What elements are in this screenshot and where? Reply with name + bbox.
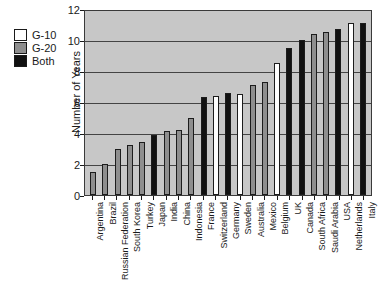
- plot-area: [84, 10, 372, 196]
- x-tick: [123, 196, 135, 201]
- x-tick: [98, 196, 110, 201]
- bar: [90, 172, 96, 195]
- x-label-slot: Germany: [222, 202, 234, 290]
- bar-slot: [197, 11, 209, 195]
- bar-slot: [332, 11, 344, 195]
- x-tick: [333, 196, 345, 201]
- bar-slot: [148, 11, 160, 195]
- bar: [237, 94, 243, 195]
- bar-slot: [124, 11, 136, 195]
- x-tick-mark: [104, 196, 105, 200]
- x-label-slot: Turkey: [135, 202, 147, 290]
- x-label-slot: Indonesia: [185, 202, 197, 290]
- x-tick-mark: [178, 196, 179, 200]
- x-tick: [135, 196, 147, 201]
- x-label-slot: USA: [333, 202, 345, 290]
- x-tick-mark: [363, 196, 364, 200]
- x-label-slot: Sweden: [234, 202, 246, 290]
- x-tick: [271, 196, 283, 201]
- chart-legend: G-10G-20Both: [14, 28, 56, 67]
- bar: [286, 48, 292, 195]
- x-tick: [172, 196, 184, 201]
- legend-swatch-g20: [14, 42, 27, 54]
- x-tick: [148, 196, 160, 201]
- bar: [299, 40, 305, 195]
- y-tick-label: 10: [68, 35, 80, 47]
- x-label-slot: Italy: [358, 202, 370, 290]
- bar: [201, 97, 207, 195]
- bar-slot: [161, 11, 173, 195]
- bar: [335, 29, 341, 195]
- x-tick: [308, 196, 320, 201]
- x-tick-mark: [240, 196, 241, 200]
- bar-slot: [246, 11, 258, 195]
- bar-slot: [296, 11, 308, 195]
- bar-slot: [173, 11, 185, 195]
- bar: [262, 82, 268, 195]
- x-label-slot: Netherlands: [345, 202, 357, 290]
- x-tick-mark: [314, 196, 315, 200]
- x-tick: [246, 196, 258, 201]
- x-label-slot: Canada: [296, 202, 308, 290]
- x-label-slot: Brazil: [98, 202, 110, 290]
- x-label-slot: India: [160, 202, 172, 290]
- x-tick-mark: [153, 196, 154, 200]
- bar-slot: [345, 11, 357, 195]
- bar-slot: [185, 11, 197, 195]
- bar: [274, 63, 280, 195]
- bar: [102, 164, 108, 195]
- bar: [151, 135, 157, 195]
- legend-label: G-10: [32, 29, 56, 41]
- x-tick: [358, 196, 370, 201]
- bar-slot: [308, 11, 320, 195]
- x-tick-mark: [326, 196, 327, 200]
- legend-item-g20: G-20: [14, 41, 56, 54]
- x-axis-label: Italy: [368, 202, 377, 219]
- legend-label: G-20: [32, 42, 56, 54]
- bar: [176, 130, 182, 195]
- x-tick-mark: [116, 196, 117, 200]
- bar-slot: [99, 11, 111, 195]
- bar: [348, 23, 354, 195]
- bar-slot: [222, 11, 234, 195]
- bar: [323, 32, 329, 195]
- x-tick-mark: [227, 196, 228, 200]
- x-label-slot: South Korea: [123, 202, 135, 290]
- bar-series: [85, 11, 371, 195]
- x-label-slot: Russian Federation: [111, 202, 123, 290]
- x-tick: [259, 196, 271, 201]
- x-label-slot: South Africa: [308, 202, 320, 290]
- x-tick-mark: [302, 196, 303, 200]
- bar: [139, 142, 145, 195]
- x-tick-mark: [215, 196, 216, 200]
- x-tick: [197, 196, 209, 201]
- x-tick-mark: [141, 196, 142, 200]
- x-tick: [222, 196, 234, 201]
- x-tick-mark: [190, 196, 191, 200]
- bar-slot: [271, 11, 283, 195]
- legend-swatch-both: [14, 55, 27, 67]
- bar-slot: [283, 11, 295, 195]
- bar-slot: [136, 11, 148, 195]
- x-tick: [86, 196, 98, 201]
- x-label-slot: China: [172, 202, 184, 290]
- x-label-slot: UK: [284, 202, 296, 290]
- bar-slot: [87, 11, 99, 195]
- legend-label: Both: [32, 55, 55, 67]
- legend-item-both: Both: [14, 54, 56, 67]
- x-tick: [321, 196, 333, 201]
- y-tick-label: 12: [68, 4, 80, 16]
- x-tick: [209, 196, 221, 201]
- x-tick-mark: [252, 196, 253, 200]
- x-tick: [284, 196, 296, 201]
- x-tick: [296, 196, 308, 201]
- bar: [250, 85, 256, 195]
- x-label-slot: Switzerland: [209, 202, 221, 290]
- x-label-slot: Australia: [246, 202, 258, 290]
- x-tick: [111, 196, 123, 201]
- x-tick: [160, 196, 172, 201]
- x-tick-mark: [92, 196, 93, 200]
- bar: [115, 149, 121, 196]
- x-label-slot: Belgium: [271, 202, 283, 290]
- x-label-slot: France: [197, 202, 209, 290]
